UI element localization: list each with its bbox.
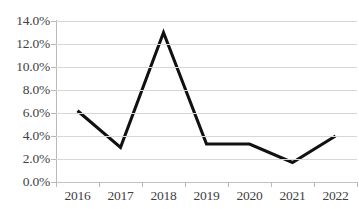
series-svg [56, 21, 357, 182]
x-tick-mark [357, 182, 358, 187]
x-tick-mark [56, 182, 57, 187]
x-axis-tick-label-2022: 2022 [322, 188, 348, 204]
x-axis-tick-label-2016: 2016 [64, 188, 90, 204]
y-axis-label-group: 0.0%2.0%4.0%6.0%8.0%10.0%12.0%14.0% [0, 0, 50, 209]
x-tick-mark [271, 182, 272, 187]
y-axis-tick-label: 4.0% [0, 129, 50, 143]
x-tick-mark [142, 182, 143, 187]
y-tick-mark [51, 136, 56, 137]
y-axis-tick-label: 8.0% [0, 83, 50, 97]
x-axis-tick-label-2017: 2017 [107, 188, 133, 204]
gridline-0.0% [56, 182, 357, 183]
y-axis-tick-label: 6.0% [0, 106, 50, 120]
plot-area [56, 21, 357, 182]
x-tick-mark [228, 182, 229, 187]
x-axis-tick-label-2020: 2020 [236, 188, 262, 204]
y-tick-mark [51, 67, 56, 68]
y-tick-mark [51, 21, 56, 22]
x-tick-mark [314, 182, 315, 187]
gridline-2.0% [56, 159, 357, 160]
gridline-4.0% [56, 136, 357, 137]
series-line-path [78, 33, 336, 163]
y-tick-mark [51, 90, 56, 91]
y-axis-tick-label: 10.0% [0, 60, 50, 74]
y-tick-mark [51, 44, 56, 45]
gridline-8.0% [56, 90, 357, 91]
y-axis-tick-label: 0.0% [0, 175, 50, 189]
gridline-6.0% [56, 113, 357, 114]
y-axis-tick-label: 12.0% [0, 37, 50, 51]
x-axis-label-group: 2016201720182019202020212022 [56, 188, 357, 208]
x-axis-tick-label-2021: 2021 [279, 188, 305, 204]
y-tick-mark [51, 159, 56, 160]
y-axis-tick-label: 2.0% [0, 152, 50, 166]
gridline-14.0% [56, 21, 357, 22]
x-axis-tick-label-2018: 2018 [150, 188, 176, 204]
x-axis-tick-label-2019: 2019 [193, 188, 219, 204]
x-tick-mark [99, 182, 100, 187]
line-chart-figure: 0.0%2.0%4.0%6.0%8.0%10.0%12.0%14.0% 2016… [0, 0, 359, 209]
x-tick-mark [185, 182, 186, 187]
y-tick-mark [51, 113, 56, 114]
y-axis-tick-label: 14.0% [0, 14, 50, 28]
gridline-12.0% [56, 44, 357, 45]
gridline-10.0% [56, 67, 357, 68]
